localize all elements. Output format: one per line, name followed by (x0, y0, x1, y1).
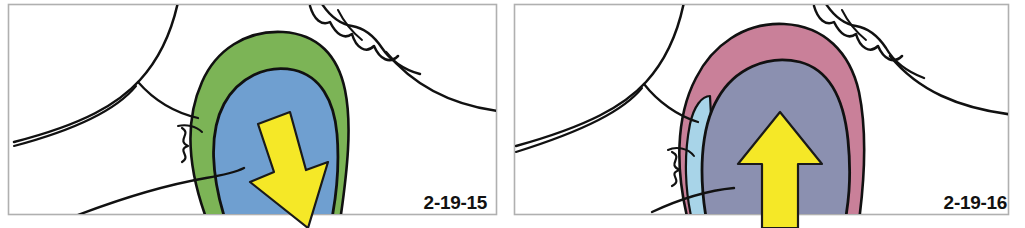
figure-label-2-19-15: 2-19-15 (424, 193, 487, 212)
illustration-panel-left[interactable]: 2-19-15 (0, 0, 505, 228)
illustration-panel-right[interactable]: 2-19-16 (512, 0, 1025, 228)
figure-label-2-19-16: 2-19-16 (944, 193, 1007, 212)
figure-root: 2-19-15 (0, 0, 1025, 228)
